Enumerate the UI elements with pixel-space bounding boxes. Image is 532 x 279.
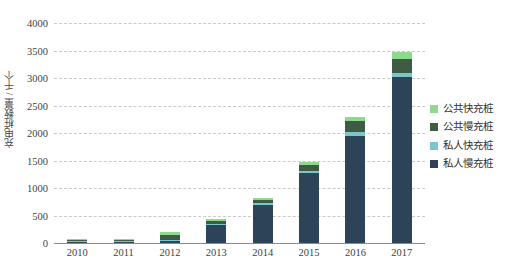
bar-segment [392,52,412,59]
bar-segment [160,241,180,243]
bar-group [114,239,134,243]
x-axis-tick-label: 2016 [345,247,366,258]
y-axis-tick-label: 500 [32,210,48,221]
gridline [54,243,425,244]
y-axis-tick-label: 0 [43,238,48,249]
y-axis-tick-label: 2000 [27,128,48,139]
x-axis-tick-label: 2014 [252,247,273,258]
bar-group [206,219,226,243]
bar-group [67,239,87,243]
legend: 公共快充桩公共慢充桩私人快充桩私人慢充桩 [430,104,493,169]
bar-group [392,52,412,243]
y-axis-tick-label: 3500 [27,45,48,56]
legend-item[interactable]: 公共快充桩 [430,104,493,114]
bar-group [299,162,319,243]
bar-segment [299,173,319,243]
legend-item[interactable]: 公共慢充桩 [430,122,493,132]
x-axis-tick-label: 2015 [299,247,320,258]
bar-group [345,117,365,243]
bar-group [160,232,180,243]
bar-segment [345,136,365,243]
bar-segment [392,59,412,73]
bar-segment [67,242,87,243]
legend-item-label: 私人慢充桩 [443,159,493,169]
bar-group [253,198,273,243]
bar-segment [392,77,412,243]
y-axis-tick-label: 1500 [27,155,48,166]
legend-item-label: 私人快充桩 [443,141,493,151]
x-axis-tick-label: 2011 [113,247,134,258]
legend-swatch-icon [430,123,438,131]
bar-segment [206,225,226,243]
legend-swatch-icon [430,142,438,150]
bar-segment [253,205,273,244]
x-axis-tick-label: 2012 [159,247,180,258]
bar-chart: 充电桩数量 / 千个 05001000150020002500300035004… [0,0,532,279]
plot-area [54,23,425,243]
y-axis-tick-labels: 05001000150020002500300035004000 [0,23,48,243]
legend-item[interactable]: 私人快充桩 [430,141,493,151]
legend-item-label: 公共慢充桩 [443,122,493,132]
bar-segment [114,242,134,243]
bar-segment [345,121,365,132]
legend-swatch-icon [430,160,438,168]
y-axis-tick-label: 4000 [27,18,48,29]
y-axis-tick-label: 3000 [27,73,48,84]
y-axis-tick-label: 1000 [27,183,48,194]
x-axis-tick-label: 2010 [67,247,88,258]
legend-swatch-icon [430,105,438,113]
legend-item-label: 公共快充桩 [443,104,493,114]
bar-series-container [54,23,425,243]
x-axis-tick-labels: 20102011201220132014201520162017 [54,247,425,267]
x-axis-tick-label: 2017 [391,247,412,258]
y-axis-tick-label: 2500 [27,100,48,111]
legend-item[interactable]: 私人慢充桩 [430,159,493,169]
x-axis-tick-label: 2013 [206,247,227,258]
